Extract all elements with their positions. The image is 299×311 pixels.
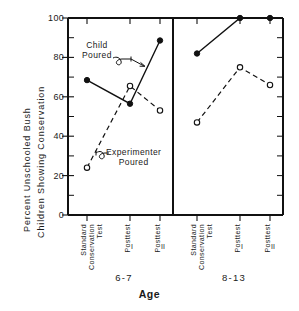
x-category-label-2-roman: II xyxy=(161,243,165,250)
annotation-child-poured-line2: Poured xyxy=(82,50,112,60)
annotation-experimenter-poured: Experimenter Poured xyxy=(106,147,161,167)
group-label-6-7: 6-7 xyxy=(94,272,154,283)
x-category-label-0-line3: Test xyxy=(96,224,104,238)
annotation-experimenter-poured-line1: Experimenter xyxy=(106,147,161,157)
annotation-experimenter-poured-line2: Poured xyxy=(119,157,149,167)
x-category-label-4-roman: I xyxy=(241,243,243,250)
series-experimenter-poured-markers-8-13 xyxy=(194,65,272,126)
y-ticks-right xyxy=(277,18,283,195)
x-category-label-0-line2: Conservation xyxy=(88,224,96,270)
child-poured-leader-squiggle xyxy=(113,57,145,67)
x-category-label-5-roman: II xyxy=(271,243,275,250)
series-child-poured-markers-8-13 xyxy=(194,15,272,56)
series-child-poured-line-8-13 xyxy=(197,18,270,54)
x-category-label-3-line2: Conservation xyxy=(198,224,206,270)
chart-figure: Percent Unschooled Bush Children Showing… xyxy=(0,0,299,311)
y-minor-ticks xyxy=(68,38,74,196)
x-ticks-bottom xyxy=(87,215,270,221)
x-category-label-0-line1: Standard xyxy=(80,224,88,256)
series-experimenter-poured-line-8-13 xyxy=(197,67,270,122)
x-category-label-3-line1: Standard xyxy=(190,224,198,256)
group-label-8-13: 8-13 xyxy=(204,272,264,283)
x-axis-title: Age xyxy=(0,288,299,300)
x-category-label-1-roman: I xyxy=(131,243,133,250)
annotation-child-poured-line1: Child xyxy=(86,40,107,50)
annotation-child-poured: Child Poured xyxy=(82,40,112,60)
x-category-label-3-line3: Test xyxy=(206,224,214,238)
